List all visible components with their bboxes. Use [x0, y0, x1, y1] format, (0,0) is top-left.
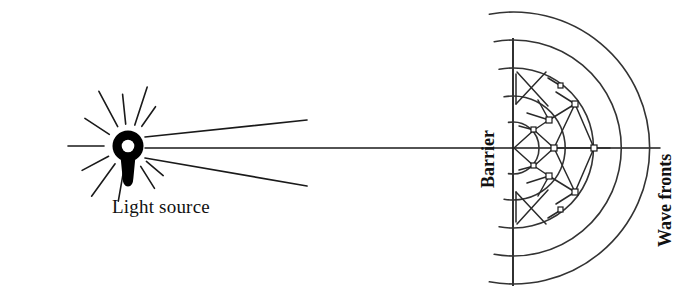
- short-ray: [123, 94, 126, 124]
- lattice-line: [517, 190, 548, 224]
- barrier-label: Barrier: [478, 130, 499, 188]
- lower-long-ray: [145, 158, 307, 186]
- diffraction-figure: Light source Barrier Wave fronts: [0, 0, 693, 294]
- lattice-node: [531, 163, 536, 168]
- lattice-node: [558, 207, 563, 212]
- upper-long-ray: [145, 120, 307, 137]
- short-ray: [92, 164, 116, 196]
- lattice-line: [514, 130, 534, 148]
- short-ray: [141, 166, 155, 188]
- light-source-bulb-icon: [113, 131, 144, 187]
- lattice-node: [572, 101, 578, 107]
- short-ray: [85, 118, 109, 134]
- lattice-node: [572, 189, 578, 195]
- lattice-node: [531, 127, 536, 132]
- lattice-node: [546, 173, 552, 179]
- lattice-node: [591, 145, 597, 151]
- short-ray: [99, 91, 118, 126]
- short-ray: [146, 161, 163, 175]
- lattice-node: [546, 117, 552, 123]
- light-source-label: Light source: [112, 196, 210, 218]
- lattice-line: [517, 72, 548, 106]
- lattice-node: [558, 83, 563, 88]
- short-ray: [82, 156, 109, 170]
- light-source-long-rays: [145, 120, 660, 186]
- short-ray: [135, 87, 147, 125]
- wave-fronts-label: Wave fronts: [655, 154, 676, 247]
- lattice-node: [551, 145, 557, 151]
- figure-canvas: [0, 0, 693, 294]
- short-ray: [142, 107, 156, 127]
